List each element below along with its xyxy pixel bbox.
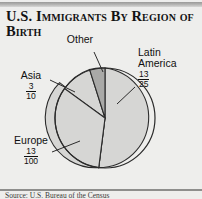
top-divider-rule (0, 2, 202, 7)
fraction-denominator: 10 (26, 92, 35, 101)
slice-label-europe-text: Europe (2, 135, 60, 146)
slice-label-europe: Europe 13 100 (2, 135, 60, 166)
figure-source-note: Source: U.S. Bureau of the Census (5, 192, 200, 199)
slice-fraction-europe: 13 100 (24, 147, 38, 166)
slice-label-latin-america-line2: America (138, 58, 198, 69)
slice-label-latin-america: Latin America 13 25 (138, 47, 198, 89)
slice-fraction-asia: 3 10 (26, 82, 35, 101)
slice-label-asia: Asia 3 10 (8, 70, 54, 101)
slice-label-other: Other (55, 34, 105, 45)
bottom-divider-rule (0, 189, 202, 191)
slice-label-other-text: Other (55, 34, 105, 45)
slice-fraction-latin-america: 13 25 (138, 70, 149, 89)
fraction-denominator: 25 (138, 80, 149, 89)
slice-label-asia-text: Asia (8, 70, 54, 81)
pie-chart: Other Latin America 13 25 Asia 3 10 Euro… (0, 34, 202, 188)
immigrants-pie-chart-figure: U.S. Immigrants By Region of Birth Other (0, 0, 202, 199)
fraction-denominator: 100 (24, 157, 38, 166)
